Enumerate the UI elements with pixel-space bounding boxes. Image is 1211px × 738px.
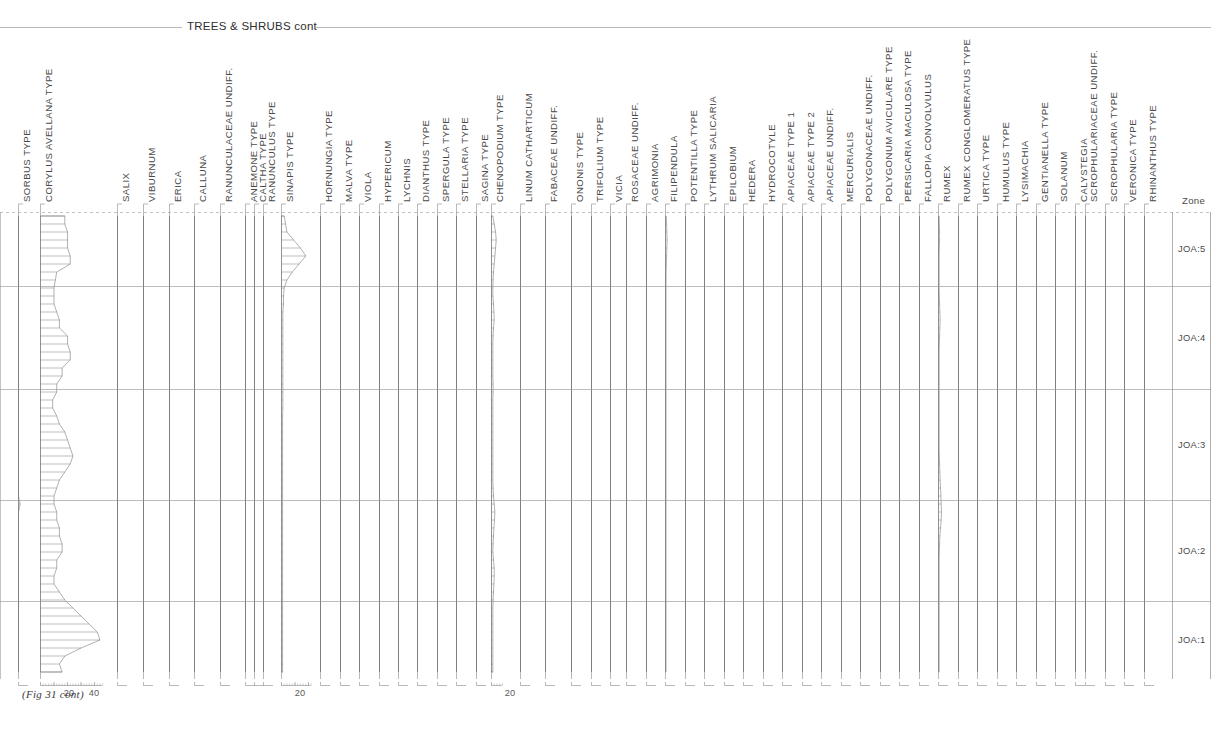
diagram-canvas <box>0 0 1211 738</box>
taxon-column <box>572 204 582 686</box>
taxon-column <box>1017 204 1027 686</box>
taxon-column <box>686 204 696 686</box>
taxon-label: SAGINA TYPE <box>480 134 490 202</box>
taxon-column <box>803 204 813 686</box>
taxon-label: POTENTILLA TYPE <box>689 110 699 202</box>
taxon-column <box>360 204 370 686</box>
taxon-column <box>418 204 428 686</box>
taxon-column <box>457 204 467 686</box>
taxon-label: ROSACEAE UNDIFF. <box>630 102 640 202</box>
taxon-label: STELLARIA TYPE <box>460 117 470 202</box>
taxon-label: HYPERICUM <box>383 140 393 202</box>
taxon-label: PERSICARIA MACULOSA TYPE <box>903 50 913 202</box>
taxon-label: SCROPHULARIACEAE UNDIFF. <box>1089 50 1099 202</box>
taxon-column <box>321 204 331 686</box>
taxon-label: VERONICA TYPE <box>1128 119 1138 202</box>
taxon-column <box>170 204 180 686</box>
taxon-label: GENTIANELLA TYPE <box>1040 102 1050 202</box>
taxon-label: SPERGULA TYPE <box>441 117 451 202</box>
axis-scale-number: 40 <box>86 688 102 698</box>
figure-caption: (Fig 31 cont) <box>22 688 84 700</box>
taxon-column <box>1056 204 1066 686</box>
taxon-column <box>842 204 852 686</box>
taxon-label: SINAPIS TYPE <box>285 131 295 202</box>
taxon-column <box>998 204 1008 686</box>
taxon-column <box>195 204 205 686</box>
taxon-column <box>725 204 735 686</box>
taxon-column <box>900 204 910 686</box>
taxon-column <box>221 204 231 686</box>
taxon-label: HYDROCOTYLE <box>767 124 777 202</box>
taxon-column <box>959 204 969 686</box>
zone-label: JOA:1 <box>1178 634 1206 645</box>
taxon-column <box>1037 204 1047 686</box>
taxon-label: FALLOPIA CONVOLVULUS <box>923 74 933 202</box>
taxon-label: LINUM CATHARTICUM <box>524 93 534 202</box>
zone-label: JOA:5 <box>1178 243 1206 254</box>
taxon-column <box>861 204 871 686</box>
taxon-column <box>118 204 128 686</box>
axis-scale-number: 20 <box>292 688 308 698</box>
taxon-column <box>282 204 312 686</box>
zone-label: JOA:3 <box>1178 439 1206 450</box>
taxon-label: AGRIMONIA <box>650 143 660 202</box>
taxon-label: HUMULUS TYPE <box>1001 122 1011 202</box>
taxon-label: CORYLUS AVELLANA TYPE <box>44 68 54 202</box>
taxon-label: URTICA TYPE <box>981 134 991 202</box>
taxon-label: APIACEAE TYPE 2 <box>806 112 816 202</box>
taxon-label: LYTHRUM SALICARIA <box>708 96 718 202</box>
taxon-label: RANUNCULUS TYPE <box>267 101 277 202</box>
taxon-label: SCROPHULARIA TYPE <box>1109 92 1119 202</box>
taxon-label: FABACEAE UNDIFF. <box>549 105 559 202</box>
taxon-label: RHINANTHUS TYPE <box>1148 105 1158 202</box>
taxon-column <box>1145 204 1155 686</box>
taxon-column <box>920 204 930 686</box>
pollen-diagram-page: TREES & SHRUBS cont SORBUS TYPECORYLUS A… <box>0 0 1211 738</box>
taxon-label: SORBUS TYPE <box>22 129 32 202</box>
taxon-label: VICIA <box>614 175 624 202</box>
taxon-label: ERICA <box>173 170 183 202</box>
taxon-column <box>264 204 274 686</box>
taxon-label: EPILOBIUM <box>728 146 738 202</box>
zone-label: JOA:4 <box>1178 332 1206 343</box>
taxon-label: LYSIMACHIA <box>1020 140 1030 202</box>
taxon-column <box>881 204 891 686</box>
taxon-label: HORNUNGIA TYPE <box>324 110 334 202</box>
taxon-label: CHENOPODIUM TYPE <box>495 94 505 202</box>
taxon-column <box>666 204 676 686</box>
taxon-column <box>341 204 351 686</box>
axis-scale-number: 20 <box>502 688 518 698</box>
taxon-column <box>611 204 621 686</box>
taxon-label: CALLUNA <box>198 155 208 202</box>
taxon-column <box>438 204 448 686</box>
taxon-column <box>1086 204 1096 686</box>
taxon-label: LYCHNIS <box>402 158 412 202</box>
taxon-label: MALVA TYPE <box>344 139 354 202</box>
taxon-column <box>592 204 602 686</box>
zone-label: JOA:2 <box>1178 545 1206 556</box>
taxon-label: RUMEX CONGLOMERATUS TYPE <box>962 39 972 202</box>
taxon-column <box>744 204 754 686</box>
taxon-column <box>19 204 29 686</box>
taxon-column <box>939 204 949 686</box>
taxon-column <box>521 204 531 686</box>
taxon-label: HEDERA <box>747 159 757 202</box>
taxon-column <box>978 204 988 686</box>
taxon-label: MERCURIALIS <box>845 131 855 202</box>
taxon-label: APIACEAE UNDIFF. <box>825 107 835 202</box>
taxon-column <box>477 204 487 686</box>
taxon-column <box>627 204 637 686</box>
taxon-column <box>764 204 774 686</box>
taxon-column <box>783 204 793 686</box>
taxon-label: VIOLA <box>363 171 373 202</box>
taxon-column <box>705 204 715 686</box>
taxon-column <box>1076 204 1086 686</box>
taxon-column <box>492 204 503 686</box>
taxon-label: POLYGONACEAE UNDIFF. <box>864 74 874 202</box>
taxon-column <box>1125 204 1135 686</box>
taxon-column <box>41 204 103 686</box>
taxon-column <box>255 204 265 686</box>
taxon-column <box>144 204 154 686</box>
taxon-label: ONONIS TYPE <box>575 132 585 202</box>
taxon-label: RANUNCULACEAE UNDIFF. <box>224 67 234 202</box>
